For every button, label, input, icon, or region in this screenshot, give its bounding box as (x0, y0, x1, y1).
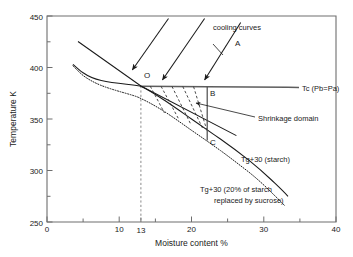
x-tick-labels: 0 10 13 20 30 40 (45, 225, 341, 235)
x-tick-label-13: 13 (136, 226, 145, 235)
x-tick-label-0: 0 (45, 225, 50, 234)
y-tick-label-400: 400 (30, 64, 44, 73)
shrinkage-domain-arrow (196, 103, 255, 117)
shrinkage-domain-hatching (150, 86, 207, 131)
y-tick-label-250: 250 (30, 219, 44, 228)
y-tick-label-450: 450 (30, 13, 44, 22)
y-tick-label-300: 300 (30, 167, 44, 176)
annotation-tg30-sucrose-line2: replaced by sucrose) (214, 196, 284, 205)
x-tick-label-10: 10 (115, 225, 124, 234)
chart-figure: 450 400 350 300 250 0 10 13 20 30 40 (0, 0, 353, 257)
point-label-a: A (235, 39, 241, 48)
x-axis-title: Moisture content % (155, 238, 228, 248)
tc-line (141, 86, 288, 87)
arrow-to-middle-curve (162, 19, 204, 81)
point-label-o: O (144, 71, 150, 80)
y-tick-label-350: 350 (30, 116, 44, 125)
x-tick-label-30: 30 (259, 225, 268, 234)
annotation-tg30-sucrose-line1: Tg+30 (20% of starch (200, 185, 272, 194)
arrow-to-o (132, 19, 168, 71)
annotation-cooling-curves: cooling curves (213, 23, 261, 32)
y-axis-title: Temperature K (8, 91, 18, 147)
annotation-tg30-starch: Tg+30 (starch) (241, 155, 290, 164)
x-axis-ticks (47, 217, 336, 223)
chart-canvas: 450 400 350 300 250 0 10 13 20 30 40 (0, 0, 353, 257)
x-tick-label-40: 40 (332, 225, 341, 234)
x-tick-label-20: 20 (187, 225, 196, 234)
tg30-starch-curve (73, 64, 288, 196)
y-axis-ticks (47, 16, 53, 222)
point-a-leader (213, 44, 223, 55)
shrinkage-domain-leader (196, 103, 255, 117)
annotation-shrinkage-domain: Shrinkage domain (258, 114, 318, 123)
y-tick-labels: 450 400 350 300 250 (30, 13, 44, 228)
point-label-c: C (210, 138, 216, 147)
annotation-tc-label: Tc (Pb=Pa) (302, 84, 340, 93)
point-label-b: B (210, 89, 215, 98)
